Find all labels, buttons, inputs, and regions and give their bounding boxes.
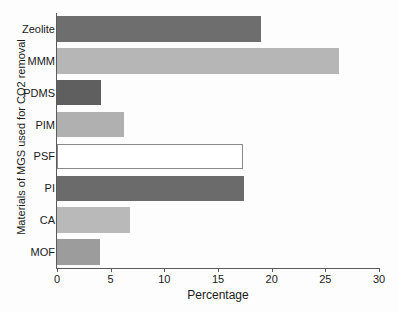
x-axis-tick-label: 25 bbox=[310, 273, 340, 286]
x-axis-tick bbox=[111, 268, 112, 272]
x-axis-tick-label: 30 bbox=[364, 273, 394, 286]
x-axis-tick bbox=[325, 268, 326, 272]
bar bbox=[57, 80, 101, 106]
bar bbox=[57, 207, 130, 233]
y-axis-tick-label: PI bbox=[16, 182, 55, 194]
x-axis-tick bbox=[379, 268, 380, 272]
x-axis-tick-label: 10 bbox=[149, 273, 179, 286]
bar bbox=[57, 239, 100, 265]
x-axis-tick bbox=[218, 268, 219, 272]
bar bbox=[57, 144, 243, 170]
y-axis-tick-label: PDMS bbox=[16, 87, 55, 99]
x-axis-tick bbox=[164, 268, 165, 272]
x-axis-title: Percentage bbox=[57, 288, 379, 302]
x-axis-tick-label: 0 bbox=[42, 273, 72, 286]
y-axis-tick-labels: ZeoliteMMMPDMSPIMPSFPICAMOF bbox=[16, 13, 55, 268]
bar bbox=[57, 16, 261, 42]
y-axis-tick-label: Zeolite bbox=[16, 23, 55, 35]
x-axis-tick bbox=[57, 268, 58, 272]
y-axis-tick-label: PSF bbox=[16, 150, 55, 162]
x-axis-tick-label: 5 bbox=[96, 273, 126, 286]
y-axis-tick-label: PIM bbox=[16, 119, 55, 131]
bar bbox=[57, 176, 244, 202]
bar bbox=[57, 48, 339, 74]
y-axis-tick-label: MMM bbox=[16, 55, 55, 67]
x-axis-tick-label: 20 bbox=[257, 273, 287, 286]
plot-area bbox=[57, 13, 379, 268]
bar-chart: Materials of MGS used for CO2 removal Ze… bbox=[0, 0, 398, 312]
bar bbox=[57, 112, 124, 138]
x-axis-tick bbox=[272, 268, 273, 272]
y-axis-tick-label: CA bbox=[16, 214, 55, 226]
x-axis-tick-label: 15 bbox=[203, 273, 233, 286]
y-axis-tick-label: MOF bbox=[16, 246, 55, 258]
